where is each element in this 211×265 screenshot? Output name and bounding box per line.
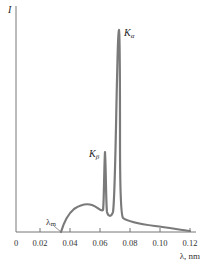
- x-axis-label: λ, nm: [180, 251, 200, 261]
- tick-label: 0.08: [123, 238, 138, 248]
- tick-label: 0: [14, 238, 18, 248]
- xray-spectrum-chart: 0 0.02 0.04 0.06 0.08 0.10 0.12 I λ, nm …: [0, 0, 211, 265]
- spectrum-curve: [61, 30, 190, 232]
- tick-label: 0.12: [183, 238, 198, 248]
- k-alpha-label: Kα: [123, 27, 135, 40]
- y-axis-label: I: [7, 4, 12, 15]
- x-tick-labels: 0 0.02 0.04 0.06 0.08 0.10 0.12: [14, 238, 198, 248]
- k-beta-label: Kβ: [88, 148, 100, 161]
- tick-label: 0.04: [63, 238, 79, 248]
- tick-label: 0.02: [33, 238, 48, 248]
- lambda-min-label: λm: [46, 217, 56, 228]
- tick-label: 0.10: [153, 238, 168, 248]
- tick-label: 0.06: [93, 238, 108, 248]
